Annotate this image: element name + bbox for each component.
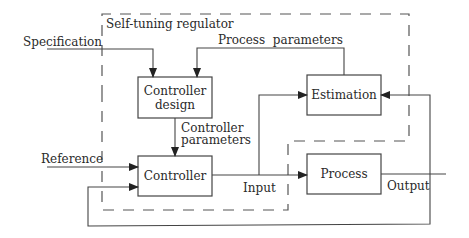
- output-label: Output: [387, 179, 430, 193]
- estimation-label: Estimation: [307, 75, 381, 115]
- controller-design-label: Controller design: [138, 77, 212, 118]
- controller-label: Controller: [138, 156, 212, 196]
- output-to-estimation-arrow: [381, 95, 430, 174]
- process-parameters-arrow: [197, 48, 344, 77]
- process-label: Process: [307, 154, 381, 194]
- input-to-estimation-arrow: [259, 95, 307, 175]
- controller-design-label-line2: design: [155, 98, 195, 112]
- reference-label: Reference: [41, 152, 103, 166]
- process-parameters-label: Process parameters: [218, 33, 343, 47]
- self-tuning-regulator-label: Self-tuning regulator: [106, 17, 234, 31]
- specification-arrow: [47, 49, 153, 77]
- controller-design-label-line1: Controller: [144, 84, 206, 98]
- specification-label: Specification: [23, 35, 102, 49]
- input-label: Input: [243, 181, 276, 195]
- controller-parameters-label-line2: parameters: [181, 133, 251, 147]
